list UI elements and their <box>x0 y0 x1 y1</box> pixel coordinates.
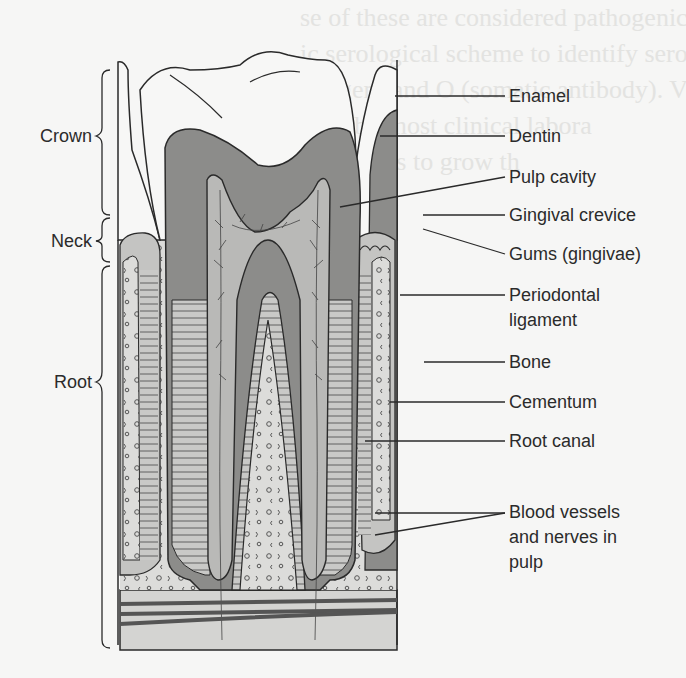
label-crown: Crown <box>20 126 92 146</box>
label-periodontal-ligament: Periodontal ligament <box>509 283 619 333</box>
crown-bracket <box>96 70 110 215</box>
tooth-diagram <box>0 0 686 678</box>
label-gums: Gums (gingivae) <box>509 244 641 264</box>
label-root: Root <box>20 372 92 392</box>
label-bone: Bone <box>509 352 551 372</box>
right-ligament <box>358 275 371 535</box>
left-ligament <box>140 270 158 560</box>
right-bone-ridge <box>372 257 390 520</box>
label-pulp-cavity: Pulp cavity <box>509 167 596 187</box>
root-ligament-left <box>172 300 210 575</box>
label-dentin: Dentin <box>509 126 561 146</box>
root-bracket <box>96 266 110 648</box>
left-brackets <box>96 70 110 648</box>
label-enamel: Enamel <box>509 86 570 106</box>
label-cementum: Cementum <box>509 392 597 412</box>
label-neck: Neck <box>20 231 92 251</box>
label-root-canal: Root canal <box>509 431 595 451</box>
label-blood-vessels: Blood vessels and nerves in pulp <box>509 500 654 575</box>
left-bone-ridge <box>123 256 140 560</box>
label-gingival-crevice: Gingival crevice <box>509 205 636 225</box>
neck-bracket <box>96 218 110 262</box>
